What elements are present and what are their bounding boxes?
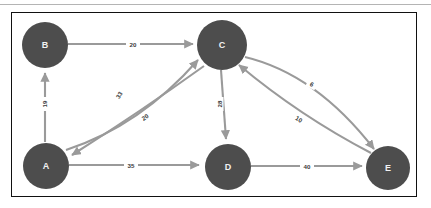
edge-label-c-d: 28 (216, 100, 223, 107)
node-label-a: A (43, 161, 50, 171)
node-label-b: B (42, 40, 49, 50)
edge-label-d-e: 40 (304, 163, 311, 170)
edge-e-c (239, 65, 371, 153)
edge-label-a-d: 35 (128, 162, 135, 169)
node-label-c: C (219, 40, 226, 50)
edge-label-a-b: 19 (41, 100, 48, 107)
edge-label-b-c: 20 (130, 41, 137, 48)
edge-c-e (245, 57, 374, 149)
directed-graph: B C A D E 19 20 33 20 (0, 0, 431, 208)
diagram-page: B C A D E 19 20 33 20 (0, 0, 431, 208)
edge-c-a (72, 66, 204, 155)
edge-labels-group: 19 20 33 20 28 6 (40, 40, 319, 171)
node-label-e: E (385, 163, 391, 173)
edge-a-c (66, 60, 198, 150)
node-label-d: D (225, 162, 232, 172)
